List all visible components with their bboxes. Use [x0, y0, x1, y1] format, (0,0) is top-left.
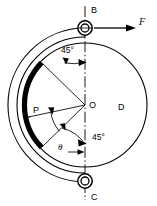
radial-line-upper — [42, 63, 85, 105]
band-brake-svg: B C O D P F 45° 45° θ — [0, 0, 157, 206]
label-pin-top: B — [91, 5, 97, 15]
label-angle-theta: θ — [58, 142, 63, 152]
label-pin-bottom: C — [91, 192, 98, 202]
label-angle-lower: 45° — [92, 132, 105, 142]
theta-leader-arrowhead — [78, 149, 85, 155]
band-brake-figure: B C O D P F 45° 45° θ — [0, 0, 157, 206]
label-lining-point: P — [33, 105, 39, 115]
arrow-right-icon — [126, 24, 136, 31]
label-angle-upper: 45° — [61, 45, 74, 55]
angle-arc-theta — [51, 112, 60, 132]
label-force: F — [138, 16, 146, 27]
band-inner-arc — [17, 37, 85, 173]
pin-joint-bottom-inner — [81, 177, 89, 185]
label-drum: D — [118, 102, 125, 112]
label-center: O — [89, 100, 96, 110]
